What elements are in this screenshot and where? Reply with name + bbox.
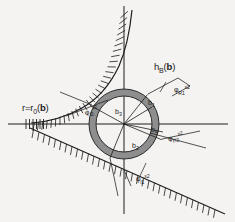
b4-sub: 4 <box>155 129 158 135</box>
h-paren-close: ) <box>172 61 175 72</box>
label-b2: b2 <box>132 142 139 152</box>
r-paren-close: ) <box>46 102 49 113</box>
label-phi-I1: φI1x2 <box>136 174 149 185</box>
phi-I2-sub: I2 <box>89 110 95 117</box>
label-b3: b3 <box>115 108 122 118</box>
phi-I1-sub: I1 <box>140 179 144 185</box>
label-h-function: hB(b) <box>154 62 175 74</box>
label-r-function: r=r0(b) <box>22 103 49 115</box>
phi-R2-suffix: x2 <box>177 130 183 137</box>
r-main: r=r <box>22 102 33 113</box>
figure-container: hB(b) r=r0(b) φR1x2 φR2x2 φI1x2 φI2x2 b1… <box>0 0 235 222</box>
b3-sub: 3 <box>119 111 122 117</box>
label-b1: b1 <box>148 99 155 109</box>
phi-R1-sub: R1 <box>178 90 184 96</box>
b1-sub: 1 <box>152 102 155 108</box>
phi-R1-suffix: x2 <box>185 84 190 90</box>
b2-sub: 2 <box>136 145 139 151</box>
phi-I1-suffix: x2 <box>144 173 149 179</box>
phi-R2-sub: R2 <box>172 136 179 143</box>
label-b4: b4 <box>151 126 158 136</box>
label-phi-R1: φR1x2 <box>174 85 190 96</box>
